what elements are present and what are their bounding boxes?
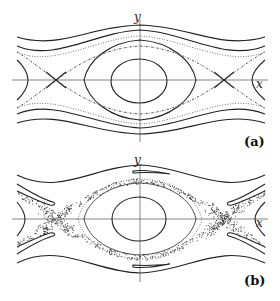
panel-b: y x (b) [0, 140, 280, 301]
phase-portrait-b: y x (b) [0, 140, 280, 301]
tongue-left-upper [17, 184, 55, 205]
chaotic-layer [17, 178, 265, 260]
tongue-right-lower [227, 233, 265, 254]
tongue-bottom-center [133, 264, 170, 267]
x-axis-label: x [256, 77, 263, 91]
central-orbit [111, 59, 167, 103]
y-axis-label: y [133, 10, 141, 24]
rotation-orbit-top-1 [17, 25, 265, 41]
tongue-left-lower [17, 233, 55, 254]
rotation-orbit-top [17, 165, 265, 182]
panel-label-b: (b) [244, 273, 265, 288]
tongue-top-center [133, 171, 170, 174]
panel-a: y x (a) [0, 0, 280, 150]
tongue-right-upper [227, 184, 265, 205]
rotation-orbit-bottom [17, 256, 265, 273]
rotation-orbit-bottom-1 [17, 119, 265, 134]
phase-portrait-a: y x (a) [0, 0, 280, 150]
rotation-orbit-bottom-2 [17, 109, 265, 128]
x-axis-label: x [256, 216, 263, 230]
